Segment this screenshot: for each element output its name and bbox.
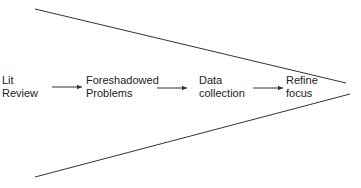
node-data-line1: Data <box>199 74 245 87</box>
node-refine-line1: Refine <box>286 74 318 87</box>
node-lit-review-line2: Review <box>2 87 38 100</box>
node-foreshadowed-line2: Problems <box>86 87 159 100</box>
node-refine-line2: focus <box>286 87 318 100</box>
node-refine-focus: Refine focus <box>286 74 318 100</box>
node-foreshadowed-problems: Foreshadowed Problems <box>86 74 159 100</box>
node-data-collection: Data collection <box>199 74 245 100</box>
node-foreshadowed-line1: Foreshadowed <box>86 74 159 87</box>
node-lit-review-line1: Lit <box>2 74 38 87</box>
funnel-bottom-line <box>35 94 350 177</box>
funnel-top-line <box>35 9 346 83</box>
node-lit-review: Lit Review <box>2 74 38 100</box>
node-data-line2: collection <box>199 87 245 100</box>
